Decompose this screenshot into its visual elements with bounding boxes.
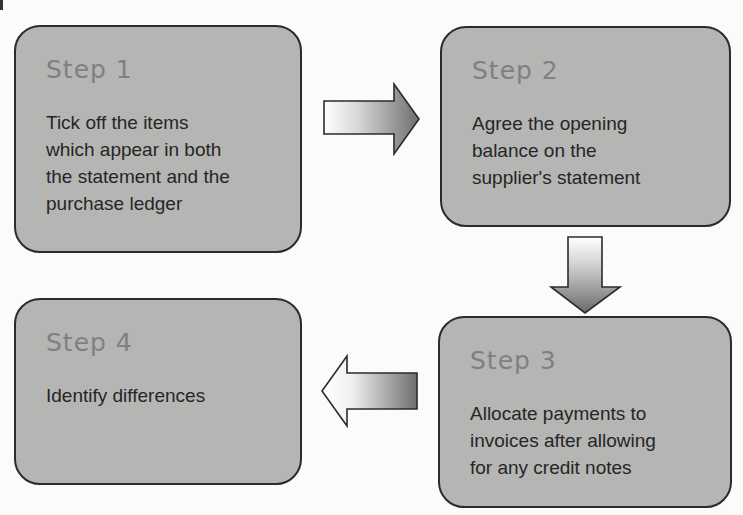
step-4-box: Step 4 Identify differences xyxy=(14,298,302,485)
arrow-down-icon xyxy=(549,235,623,315)
step-2-title: Step 2 xyxy=(472,56,729,86)
page-edge-mark xyxy=(0,0,3,10)
step-3-text: Allocate payments to invoices after allo… xyxy=(470,400,730,481)
process-diagram: Step 1 Tick off the items which appear i… xyxy=(0,0,743,515)
step-1-title: Step 1 xyxy=(46,55,300,85)
step-2-box: Step 2 Agree the opening balance on the … xyxy=(440,26,731,227)
step-1-text: Tick off the items which appear in both … xyxy=(46,109,300,217)
step-4-text: Identify differences xyxy=(46,382,300,409)
step-1-box: Step 1 Tick off the items which appear i… xyxy=(14,25,302,253)
arrow-right-icon xyxy=(322,82,422,156)
step-2-text: Agree the opening balance on the supplie… xyxy=(472,110,729,191)
arrow-left-icon xyxy=(320,354,420,428)
step-4-title: Step 4 xyxy=(46,328,300,358)
step-3-box: Step 3 Allocate payments to invoices aft… xyxy=(438,316,732,508)
step-3-title: Step 3 xyxy=(470,346,730,376)
